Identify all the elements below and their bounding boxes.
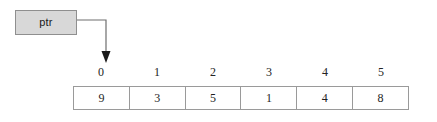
array-index-label: 5: [353, 64, 409, 80]
array-cell: 3: [130, 87, 186, 109]
array-index-label: 2: [185, 64, 241, 80]
diagram-canvas: ptr 0 1 2 3 4 5 9 3 5 1 4 8: [0, 0, 437, 122]
array-index-row: 0 1 2 3 4 5: [73, 64, 409, 80]
array-cell: 9: [74, 87, 130, 109]
pointer-variable-label: ptr: [39, 17, 52, 28]
array-cell: 5: [186, 87, 242, 109]
array-index-label: 4: [297, 64, 353, 80]
array-cells-row: 9 3 5 1 4 8: [73, 86, 409, 110]
array-index-label: 3: [241, 64, 297, 80]
array-cell: 4: [297, 87, 353, 109]
array-index-label: 0: [73, 64, 129, 80]
array-index-label: 1: [129, 64, 185, 80]
array-cell: 8: [353, 87, 408, 109]
pointer-variable-box: ptr: [15, 10, 77, 35]
array-cell: 1: [241, 87, 297, 109]
